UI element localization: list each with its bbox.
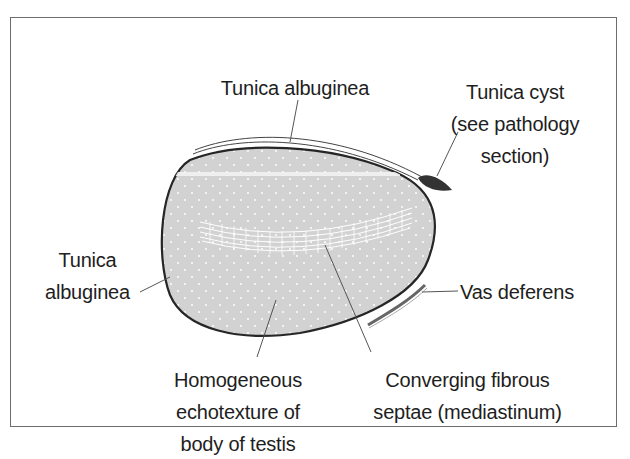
label-tunica-cyst: Tunica cyst (see pathology section) xyxy=(435,76,595,172)
label-line: echotexture of xyxy=(153,396,323,428)
label-line: (see pathology xyxy=(435,108,595,140)
label-line: albuginea xyxy=(30,276,145,308)
label-line: Tunica xyxy=(30,244,145,276)
label-homogeneous-echotexture: Homogeneous echotexture of body of testi… xyxy=(153,364,323,459)
label-tunica-albuginea-top: Tunica albuginea xyxy=(205,72,385,104)
label-line: Homogeneous xyxy=(153,364,323,396)
label-line: Tunica albuginea xyxy=(205,72,385,104)
label-line: section) xyxy=(435,140,595,172)
label-tunica-albuginea-left: Tunica albuginea xyxy=(30,244,145,308)
label-line: septae (mediastinum) xyxy=(350,396,585,428)
label-line: Converging fibrous xyxy=(350,364,585,396)
label-line: Tunica cyst xyxy=(435,76,595,108)
tunica-cyst xyxy=(418,175,452,190)
label-vas-deferens: Vas deferens xyxy=(460,276,600,308)
label-converging-fibrous-septae: Converging fibrous septae (mediastinum) xyxy=(350,364,585,428)
label-line: body of testis xyxy=(153,428,323,459)
label-line: Vas deferens xyxy=(460,276,600,308)
